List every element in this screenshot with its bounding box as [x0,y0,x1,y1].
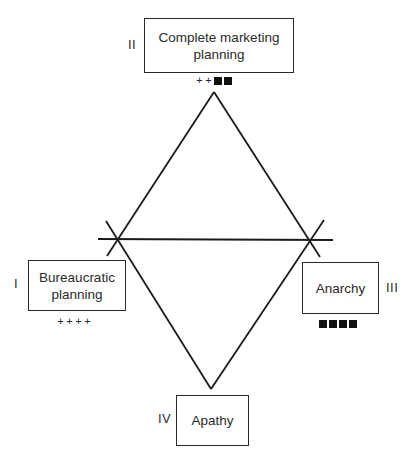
square-mark [349,320,357,328]
label-line-1: Complete marketing [159,29,280,46]
node-complete-marketing-planning: Complete marketing planning [144,18,294,73]
numeral-iii: III [386,280,398,295]
line-top-right [214,92,320,257]
node-bureaucratic-planning: Bureaucratic planning [28,260,126,311]
rating-complete-marketing-planning: + + [196,76,232,85]
square-mark [329,320,337,328]
diagram-canvas: II Complete marketing planning + + I Bur… [0,0,408,462]
numeral-i: I [14,276,18,291]
plus-mark: + [84,317,91,326]
square-mark [214,77,222,85]
numeral-ii: II [128,37,136,52]
node-anarchy: Anarchy [302,262,379,314]
plus-mark: + [205,76,212,85]
rating-anarchy [319,320,357,328]
horizontal-line [98,239,333,240]
plus-mark: + [196,76,203,85]
label-line-1: Apathy [191,412,233,429]
node-label: Complete marketing planning [159,29,280,63]
label-line-2: planning [159,46,280,63]
square-mark [224,77,232,85]
plus-mark: + [66,317,73,326]
node-label: Anarchy [316,280,366,297]
plus-mark: + [57,317,64,326]
numeral-iv: IV [158,411,171,426]
label-line-1: Anarchy [316,280,366,297]
label-line-2: planning [39,286,115,303]
square-mark [339,320,347,328]
node-label: Bureaucratic planning [39,269,115,303]
rating-bureaucratic-planning: + + + + [57,317,91,326]
square-mark [319,320,327,328]
node-apathy: Apathy [176,395,249,446]
label-line-1: Bureaucratic [39,269,115,286]
plus-mark: + [75,317,82,326]
node-label: Apathy [191,412,233,429]
line-top-left [107,92,214,256]
